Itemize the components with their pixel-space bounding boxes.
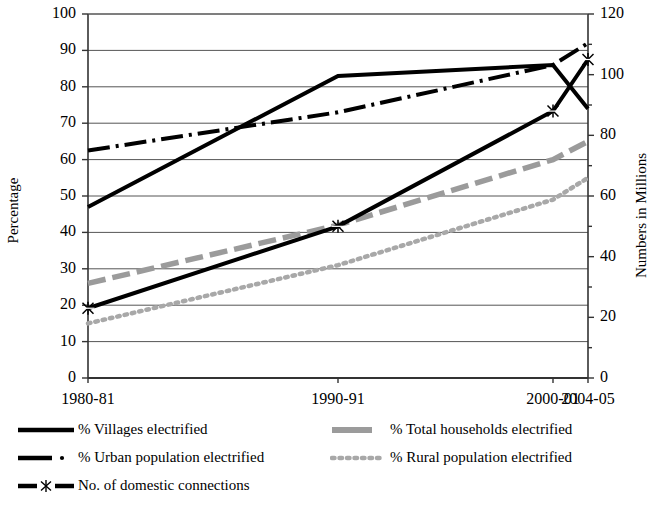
- legend-item[interactable]: % Rural population electrified: [330, 450, 572, 465]
- left-tick-label: 70: [26, 113, 76, 131]
- right-tick-label: 80: [600, 125, 650, 143]
- data-point-marker: [547, 105, 560, 118]
- left-tick-label: 90: [26, 40, 76, 58]
- chart-figure: Percentage Numbers in Millions 010203040…: [0, 0, 657, 517]
- right-tick-label: 120: [600, 4, 650, 22]
- x-tick-label: 2004-05: [538, 390, 638, 408]
- legend-item-label: No. of domestic connections: [78, 478, 250, 493]
- legend-item-label: % Total households electrified: [390, 422, 572, 437]
- series-line-4: [88, 60, 588, 309]
- series-line-0: [88, 65, 588, 207]
- legend-key-icon: [18, 423, 76, 437]
- legend-item[interactable]: % Urban population electrified: [18, 450, 264, 465]
- right-tick-label: 0: [600, 368, 650, 386]
- right-axis-title: Numbers in Millions: [628, 120, 654, 310]
- chart-legend: % Villages electrified% Total households…: [0, 420, 657, 517]
- left-tick-label: 50: [26, 186, 76, 204]
- x-tick-label: 1990-91: [288, 390, 388, 408]
- legend-key-icon: [18, 479, 76, 493]
- data-point-marker: [582, 53, 595, 66]
- left-tick-label: 0: [26, 368, 76, 386]
- legend-item-label: % Villages electrified: [78, 422, 208, 437]
- legend-item-label: % Rural population electrified: [390, 450, 572, 465]
- left-tick-label: 80: [26, 77, 76, 95]
- left-tick-label: 40: [26, 222, 76, 240]
- right-tick-label: 60: [600, 186, 650, 204]
- data-point-marker: [82, 302, 95, 315]
- legend-item-label: % Urban population electrified: [78, 450, 264, 465]
- legend-key-icon: [330, 451, 388, 465]
- legend-key-icon: [330, 423, 388, 437]
- plot-area: [0, 0, 657, 420]
- legend-item[interactable]: % Villages electrified: [18, 422, 208, 437]
- right-tick-label: 40: [600, 247, 650, 265]
- left-tick-label: 30: [26, 259, 76, 277]
- data-point-marker: [332, 220, 345, 233]
- legend-key-icon: [18, 451, 76, 465]
- left-tick-label: 60: [26, 150, 76, 168]
- right-tick-label: 100: [600, 65, 650, 83]
- series-line-3: [88, 178, 588, 324]
- left-axis-title: Percentage: [2, 130, 26, 290]
- legend-item[interactable]: No. of domestic connections: [18, 478, 250, 493]
- left-tick-label: 100: [26, 4, 76, 22]
- left-tick-label: 10: [26, 332, 76, 350]
- left-tick-label: 20: [26, 295, 76, 313]
- right-tick-label: 20: [600, 307, 650, 325]
- x-tick-label: 1980-81: [38, 390, 138, 408]
- legend-item[interactable]: % Total households electrified: [330, 422, 572, 437]
